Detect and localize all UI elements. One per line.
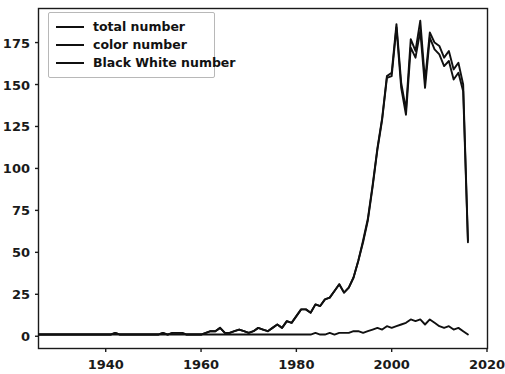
legend-line-icon (56, 44, 84, 46)
x-tick-label: 1940 (88, 358, 124, 371)
legend-line-icon (56, 62, 84, 64)
x-tick-label: 1960 (183, 358, 219, 371)
x-tick-label: 1980 (278, 358, 314, 371)
y-tick-label: 100 (0, 162, 30, 175)
y-tick-label: 150 (0, 78, 30, 91)
legend-item-color-number: color number (56, 36, 207, 54)
y-tick-label: 25 (0, 288, 30, 301)
y-tick-label: 0 (0, 330, 30, 343)
legend-label: Black White number (93, 57, 236, 70)
y-tick-label: 50 (0, 246, 30, 259)
x-tick-label: 2000 (374, 358, 410, 371)
legend-item-total-number: total number (56, 18, 207, 36)
x-tick-label: 2020 (469, 358, 505, 371)
y-tick-label: 175 (0, 36, 30, 49)
legend-label: total number (93, 21, 185, 34)
y-tick-label: 125 (0, 120, 30, 133)
legend-line-icon (56, 26, 84, 28)
chart-legend: total number color number Black White nu… (48, 12, 215, 78)
legend-label: color number (93, 39, 187, 52)
legend-item-black-white-number: Black White number (56, 54, 207, 72)
y-tick-label: 75 (0, 204, 30, 217)
